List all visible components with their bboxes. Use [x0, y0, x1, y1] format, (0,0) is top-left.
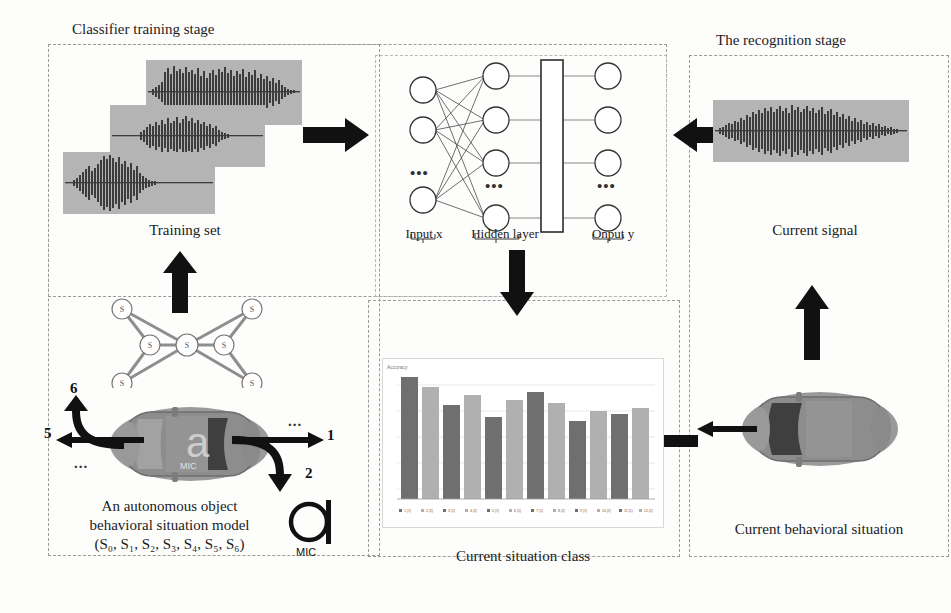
chart-legend: 1 (1) 2 (2) 3 (1) 4 (2) 5 (1) 6 (2) 7 (1… [399, 509, 653, 513]
svg-text:S: S [120, 379, 124, 388]
waveform-graphic [63, 152, 215, 214]
mic-logo: MIC [288, 498, 342, 560]
direction-label-1: 1 [327, 427, 335, 444]
direction-arrow-6 [62, 395, 124, 445]
arrow-right-icon [303, 118, 369, 152]
direction-label-6: 6 [70, 380, 78, 397]
stage-label-recognition: The recognition stage [716, 32, 846, 49]
caption-model: An autonomous object behavioral situatio… [62, 497, 277, 555]
waveform-graphic [713, 100, 909, 162]
caption-model-line1: An autonomous object [62, 497, 277, 516]
bar-chart-graphic: Accuracy 1 (1) 2 (2) [383, 359, 663, 527]
svg-text:S: S [120, 305, 124, 314]
caption-current-signal: Current signal [740, 222, 890, 239]
caption-current-behavioral-situation: Current behavioral situation [700, 521, 938, 538]
direction-ellipsis-left: ... [74, 455, 88, 472]
svg-text:10 (2): 10 (2) [602, 509, 611, 513]
autonomous-vehicle-right [740, 390, 900, 468]
svg-text:4 (2): 4 (2) [470, 509, 477, 513]
svg-text:S: S [250, 379, 254, 388]
car-top-view-icon [740, 390, 900, 468]
network-output-label: Onput y [572, 226, 654, 242]
state-graph-graphic: SSS SS SS [82, 293, 292, 388]
training-waveform-3 [63, 152, 215, 214]
svg-text:MIC: MIC [180, 461, 197, 471]
stage-label-training: Classifier training stage [72, 21, 214, 38]
svg-text:6 (2): 6 (2) [514, 509, 521, 513]
current-signal-waveform [713, 100, 909, 162]
arrow-classifier-to-chart [500, 250, 534, 316]
direction-ellipsis-right: ... [288, 413, 302, 430]
direction-label-2: 2 [305, 465, 313, 482]
network-hidden-label: Hidden layer [455, 226, 555, 242]
svg-text:a: a [186, 419, 210, 466]
output-ellipsis: ••• [597, 178, 616, 195]
svg-text:S: S [250, 305, 254, 314]
direction-arrow-2 [232, 440, 298, 492]
arrow-situation-to-signal [795, 285, 829, 360]
svg-text:12 (2): 12 (2) [644, 509, 653, 513]
svg-text:S: S [185, 341, 189, 350]
hidden-layer-block [541, 60, 563, 232]
arrow-up-icon [62, 395, 124, 445]
caption-training-set: Training set [100, 222, 270, 239]
svg-text:3 (1): 3 (1) [448, 509, 455, 513]
situation-class-chart: Accuracy 1 (1) 2 (2) [382, 358, 664, 528]
svg-text:9 (1): 9 (1) [580, 509, 587, 513]
arrow-left-icon [697, 421, 757, 437]
svg-text:S: S [222, 341, 226, 350]
svg-text:8 (2): 8 (2) [558, 509, 565, 513]
svg-text:1 (1): 1 (1) [404, 509, 411, 513]
arrow-up-icon [795, 285, 829, 360]
network-input-label: Input x [388, 226, 460, 242]
chart-y-axis-label: Accuracy [387, 364, 408, 370]
svg-text:5 (1): 5 (1) [492, 509, 499, 513]
arrow-down-icon [500, 250, 534, 316]
chart-bars [401, 377, 649, 499]
input-ellipsis: ••• [410, 165, 429, 182]
hidden-ellipsis: ••• [485, 178, 504, 195]
direction-label-5: 5 [44, 425, 52, 442]
arrow-training-to-classifier [303, 118, 369, 152]
arrow-down-icon [232, 440, 298, 492]
state-transition-graph: SSS SS SS [82, 293, 292, 388]
svg-text:11 (1): 11 (1) [624, 509, 633, 513]
svg-text:7 (1): 7 (1) [536, 509, 543, 513]
svg-text:2 (2): 2 (2) [426, 509, 433, 513]
arrow-right-car-heading [697, 421, 757, 437]
microphone-brand-icon: MIC [288, 498, 342, 560]
caption-model-line3: (S₀, S₁, S₂, S₃, S₄, S₅, S₆) [62, 535, 277, 554]
caption-current-situation-class: Current situation class [403, 548, 643, 565]
caption-model-line2: behavioral situation model [62, 516, 277, 535]
mic-logo-label: MIC [296, 546, 316, 558]
svg-text:S: S [148, 341, 152, 350]
